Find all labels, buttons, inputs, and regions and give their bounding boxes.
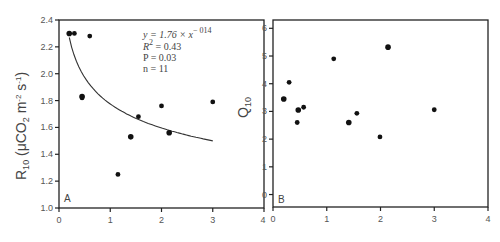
data-point <box>295 120 300 125</box>
panel-b-points <box>281 44 437 139</box>
x-tick-label: 4 <box>260 215 265 225</box>
figure: 012341.01.21.41.61.82.02.22.4 y = 1.76 ×… <box>0 0 500 242</box>
data-point <box>354 111 359 116</box>
x-tick-label: 3 <box>432 214 437 224</box>
y-tick-label: 3 <box>262 106 267 116</box>
x-tick-label: 2 <box>159 215 164 225</box>
data-point <box>295 107 301 113</box>
y-tick-label: 0 <box>262 190 267 200</box>
x-tick-label: 3 <box>210 215 215 225</box>
x-tick-label: 1 <box>108 215 113 225</box>
data-point <box>87 34 92 39</box>
data-point <box>80 95 85 100</box>
data-point <box>287 80 292 85</box>
panel-a-points <box>66 31 215 177</box>
sample-size: n = 11 <box>143 63 168 74</box>
data-point <box>378 135 383 140</box>
y-tick-label: 6 <box>262 23 267 33</box>
panel-letter-b: B <box>278 194 285 205</box>
data-point <box>432 107 437 112</box>
y-tick-label: 4 <box>262 79 267 89</box>
panel-a: 012341.01.21.41.61.82.02.22.4 y = 1.76 ×… <box>13 15 266 225</box>
y-axis-title-a: R10 (μCO2 m-2 s-1) <box>13 72 31 180</box>
y-tick-label: 1.8 <box>40 96 53 106</box>
data-point <box>116 172 121 177</box>
data-point <box>385 44 391 50</box>
data-point <box>210 100 215 105</box>
x-tick-label: 4 <box>485 214 490 224</box>
data-point <box>72 31 77 36</box>
y-tick-label: 1.0 <box>40 203 53 213</box>
y-tick-label: 2 <box>262 134 267 144</box>
x-tick-label: 0 <box>270 214 275 224</box>
data-point <box>346 120 352 126</box>
y-tick-label: 1.2 <box>40 176 53 186</box>
data-point <box>66 31 72 37</box>
y-tick-label: 1 <box>262 162 267 172</box>
panel-letter-a: A <box>64 193 71 204</box>
x-tick-label: 2 <box>378 214 383 224</box>
data-point <box>281 96 287 102</box>
y-tick-label: 2.4 <box>40 15 53 25</box>
data-point <box>136 114 141 119</box>
y-tick-label: 1.4 <box>40 149 53 159</box>
panel-b: 012340123456 B Q10 <box>235 20 491 224</box>
p-value: P = 0.03 <box>143 52 176 63</box>
y-tick-label: 5 <box>262 51 267 61</box>
x-tick-label: 1 <box>324 214 329 224</box>
data-point <box>159 104 164 109</box>
r-squared: R2 = 0.43 <box>142 38 181 52</box>
y-tick-label: 1.6 <box>40 122 53 132</box>
data-point <box>331 56 336 61</box>
power-fit-curve <box>69 38 213 141</box>
data-point <box>301 105 306 110</box>
y-tick-label: 2.0 <box>40 69 53 79</box>
panel-b-frame <box>273 20 488 207</box>
y-tick-label: 2.2 <box>40 42 53 52</box>
data-point <box>166 130 172 136</box>
data-point <box>128 134 134 140</box>
x-tick-label: 0 <box>56 215 61 225</box>
y-axis-title-b: Q10 <box>235 97 253 118</box>
